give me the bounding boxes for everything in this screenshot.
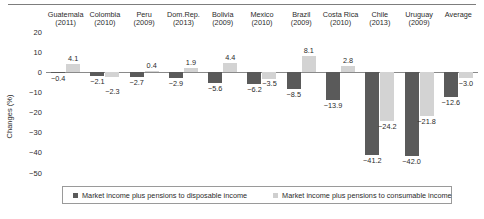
bar-value-label: −6.2 [247, 85, 261, 94]
bar-disposable [444, 72, 458, 97]
bar-value-label: −3.0 [459, 79, 473, 88]
bar-consumable [66, 64, 80, 72]
category-label: Bolivia(2009) [212, 11, 234, 28]
bar-value-label: −42.0 [402, 157, 420, 166]
category-year: (2011) [48, 19, 84, 27]
legend-items: Market income plus pensions to disposabl… [63, 191, 452, 200]
bar-group: Costa Rica(2010)−13.92.8 [321, 28, 360, 178]
y-tick-label: −10 [29, 88, 42, 97]
category-label: Peru(2009) [134, 11, 155, 28]
chart-figure: 20100−10−20−30−40−50 Changes (%) Guatema… [0, 0, 484, 219]
bar-value-label: −24.2 [378, 122, 396, 131]
category-year: (2010) [323, 19, 359, 27]
bar-value-label: 4.4 [225, 53, 235, 62]
category-year: (2013) [167, 19, 200, 27]
bar-consumable [341, 66, 355, 72]
y-tick-label: −50 [29, 168, 42, 177]
y-tick-label: 10 [33, 47, 42, 56]
y-tick-label: 20 [33, 27, 42, 36]
bar-value-label: −2.1 [90, 77, 104, 86]
bar-disposable [405, 72, 419, 156]
y-tick-label: −20 [29, 108, 42, 117]
bar-disposable [51, 72, 65, 73]
bar-group: Chile(2013)−41.2−24.2 [360, 28, 399, 178]
bar-consumable [145, 71, 159, 72]
bar-consumable [105, 72, 119, 77]
bar-consumable [380, 72, 394, 121]
bar-group: Average−12.6−3.0 [439, 28, 478, 178]
bar-value-label: 4.1 [68, 54, 78, 63]
bar-value-label: 0.4 [147, 61, 157, 70]
bar-group: Peru(2009)−2.70.4 [125, 28, 164, 178]
bar-consumable [184, 68, 198, 72]
bar-value-label: −5.6 [208, 84, 222, 93]
bar-disposable [130, 72, 144, 77]
y-tick-label: −40 [29, 148, 42, 157]
category-year: (2009) [212, 19, 234, 27]
legend-label: Market income plus pensions to disposabl… [82, 191, 247, 200]
bar-consumable [420, 72, 434, 116]
legend-swatch-dark [73, 193, 78, 198]
bar-value-label: −3.5 [262, 79, 276, 88]
category-label: Brazil(2009) [291, 11, 312, 28]
bar-group: Dom.Rep.(2013)−2.91.9 [164, 28, 203, 178]
bar-value-label: −13.9 [324, 101, 342, 110]
bar-group: Bolivia(2009)−5.64.4 [203, 28, 242, 178]
bar-value-label: 2.8 [343, 56, 353, 65]
category-year: (2010) [89, 19, 120, 27]
bar-value-label: −2.3 [105, 87, 119, 96]
category-label: Colombia(2010) [89, 11, 120, 28]
bar-group: Guatemala(2011)−0.44.1 [46, 28, 85, 178]
bar-value-label: −2.9 [169, 79, 183, 88]
bar-value-label: 1.9 [186, 58, 196, 67]
bar-group: Colombia(2010)−2.1−2.3 [85, 28, 124, 178]
bar-value-label: −8.5 [287, 90, 301, 99]
bar-consumable [223, 63, 237, 72]
bar-disposable [326, 72, 340, 100]
bar-disposable [287, 72, 301, 89]
category-year: (2010) [250, 19, 273, 27]
bar-group: Brazil(2009)−8.58.1 [282, 28, 321, 178]
category-year: (2009) [405, 19, 433, 27]
category-label: Average [445, 11, 472, 19]
bar-disposable [90, 72, 104, 76]
bar-value-label: −12.6 [442, 98, 460, 107]
category-label: Chile(2013) [369, 11, 390, 28]
bar-value-label: 8.1 [304, 46, 314, 55]
top-divider [8, 4, 476, 5]
plot-area: Guatemala(2011)−0.44.1Colombia(2010)−2.1… [46, 28, 478, 178]
y-axis: 20100−10−20−30−40−50 Changes (%) [0, 0, 46, 219]
category-label: Guatemala(2011) [48, 11, 84, 28]
category-year: (2009) [134, 19, 155, 27]
bar-consumable [302, 56, 316, 72]
legend-item: Market income plus pensions to disposabl… [73, 191, 247, 200]
bar-group: Uruguay(2009)−42.0−21.8 [399, 28, 438, 178]
y-tick-label: 0 [38, 68, 42, 77]
category-label: Costa Rica(2010) [323, 11, 359, 28]
bar-disposable [208, 72, 222, 83]
category-year: (2013) [369, 19, 390, 27]
category-label: Uruguay(2009) [405, 11, 433, 28]
chart-legend: Market income plus pensions to disposabl… [62, 186, 452, 204]
bar-disposable [169, 72, 183, 78]
category-year: (2009) [291, 19, 312, 27]
bar-consumable [262, 72, 276, 79]
category-label: Dom.Rep.(2013) [167, 11, 200, 28]
bar-value-label: −2.7 [129, 78, 143, 87]
category-name: Average [445, 11, 472, 19]
legend-label: Market income plus pensions to consumabl… [282, 191, 452, 200]
category-label: Mexico(2010) [250, 11, 273, 28]
bar-disposable [365, 72, 379, 155]
bar-group: Mexico(2010)−6.2−3.5 [242, 28, 281, 178]
bar-value-label: −41.2 [363, 156, 381, 165]
legend-item: Market income plus pensions to consumabl… [273, 191, 452, 200]
bar-consumable [459, 72, 473, 78]
bar-disposable [247, 72, 261, 84]
y-tick-label: −30 [29, 128, 42, 137]
legend-swatch-light [273, 193, 278, 198]
y-axis-title: Changes (%) [5, 82, 14, 152]
bar-value-label: −0.4 [51, 74, 65, 83]
bar-value-label: −21.8 [417, 117, 435, 126]
